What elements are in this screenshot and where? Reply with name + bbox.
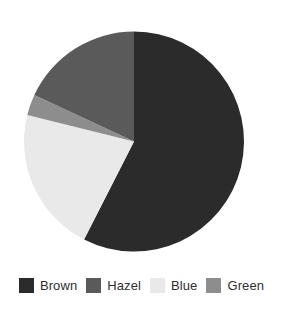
legend-item-blue[interactable]: Blue xyxy=(150,278,197,293)
legend-label-green: Green xyxy=(227,278,264,293)
pie-chart-figure: Brown Hazel Blue Green xyxy=(0,0,283,313)
legend-label-hazel: Hazel xyxy=(107,278,141,293)
legend-item-hazel[interactable]: Hazel xyxy=(86,278,141,293)
chart-legend: Brown Hazel Blue Green xyxy=(0,272,283,298)
legend-swatch-brown xyxy=(19,278,34,293)
legend-item-green[interactable]: Green xyxy=(206,278,264,293)
legend-item-brown[interactable]: Brown xyxy=(19,278,77,293)
legend-label-brown: Brown xyxy=(40,278,77,293)
pie-svg xyxy=(0,0,283,262)
pie-slice-group xyxy=(24,32,244,252)
pie-plot-area xyxy=(0,0,283,262)
legend-swatch-green xyxy=(206,278,221,293)
legend-swatch-hazel xyxy=(86,278,101,293)
legend-swatch-blue xyxy=(150,278,165,293)
legend-label-blue: Blue xyxy=(171,278,197,293)
